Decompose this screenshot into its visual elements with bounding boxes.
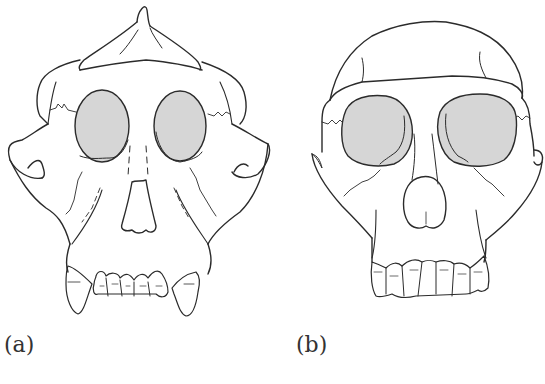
teeth-a xyxy=(66,266,199,316)
panel-label-b: (b) xyxy=(296,332,327,357)
nasal-aperture-a xyxy=(122,180,156,233)
panel-label-a: (a) xyxy=(4,332,34,357)
left-orbit-b xyxy=(342,96,413,166)
skull-b xyxy=(312,22,543,298)
right-orbit-a xyxy=(154,91,206,161)
skull-comparison-figure: (a) (b) xyxy=(0,0,545,384)
cranial-vault xyxy=(330,22,523,100)
right-orbit-b xyxy=(438,94,517,166)
nasal-aperture-b xyxy=(404,177,446,228)
skull-a xyxy=(9,7,270,316)
left-orbit-a xyxy=(75,90,129,162)
teeth-b xyxy=(371,256,489,297)
sagittal-crest xyxy=(137,7,150,26)
